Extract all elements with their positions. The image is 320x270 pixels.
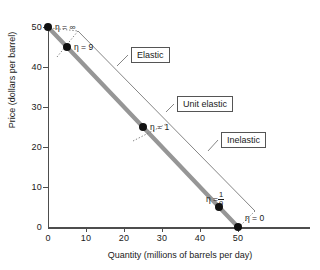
annotation-inelastic: Inelastic xyxy=(221,132,266,148)
data-point-eta-1 xyxy=(139,123,147,131)
elastic-leader-line xyxy=(117,55,128,66)
point-label-eta-one-ninth-text: η = xyxy=(206,194,218,204)
point-label-eta-0: η = 0 xyxy=(245,213,264,223)
elasticity-demand-chart: 0 10 20 30 40 50 0 10 20 30 40 50 Quanti… xyxy=(0,0,320,270)
inelastic-leader-line xyxy=(208,140,218,151)
plot-graphics xyxy=(0,0,320,270)
point-label-eta-1: η = 1 xyxy=(150,122,169,132)
annotation-elastic: Elastic xyxy=(131,47,170,63)
annotation-unit-elastic: Unit elastic xyxy=(177,96,233,112)
fraction-one-ninth: 19 xyxy=(218,191,224,208)
data-point-eta-infinity xyxy=(44,23,52,31)
point-label-eta-9: η = 9 xyxy=(74,42,93,52)
point-label-eta-one-ninth: η =19 xyxy=(206,191,224,208)
data-point-eta-9 xyxy=(63,43,71,51)
data-point-eta-0 xyxy=(234,223,242,231)
unit-elastic-leader-line xyxy=(166,104,174,112)
fraction-denominator: 9 xyxy=(218,200,224,208)
point-label-eta-infinity: η = ∞ xyxy=(55,22,75,32)
